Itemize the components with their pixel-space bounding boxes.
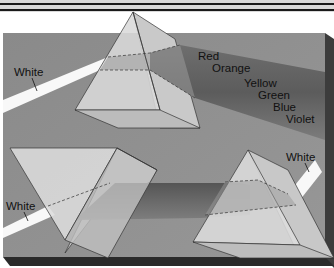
label-white-bottom-out: White: [286, 151, 315, 163]
label-yellow: Yellow: [244, 77, 278, 89]
prism-diagram: White Red Orange Yellow Green Blue Viole…: [0, 0, 334, 268]
label-red: Red: [198, 50, 219, 62]
header-band: [0, 0, 334, 32]
label-orange: Orange: [212, 62, 250, 74]
label-blue: Blue: [273, 101, 296, 113]
label-white-bottom-in: White: [6, 200, 35, 212]
label-white-top-in: White: [14, 66, 43, 78]
label-green: Green: [258, 89, 290, 101]
label-violet: Violet: [286, 113, 315, 125]
